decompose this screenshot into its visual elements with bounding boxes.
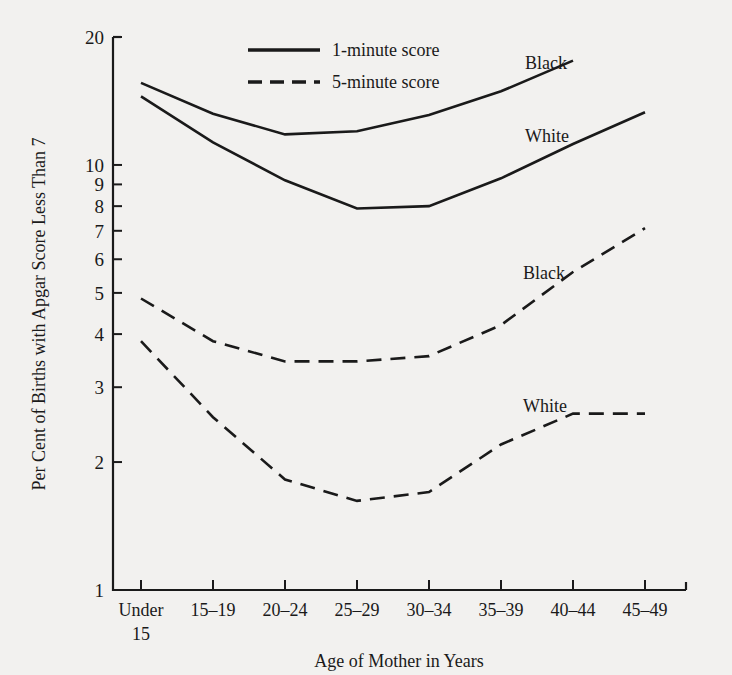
series-line-black-5-minute-score — [141, 228, 645, 361]
axes — [113, 37, 686, 590]
y-tick-label-5: 5 — [95, 283, 105, 304]
series-line-white-5-minute-score — [141, 341, 645, 501]
legend-label-5-minute: 5-minute score — [332, 72, 439, 92]
series-annotation-black-5min: Black — [523, 263, 565, 283]
series-annotation-white-1min: White — [525, 126, 569, 146]
data-series-group — [141, 61, 645, 501]
x-axis-ticks — [141, 580, 645, 590]
y-tick-label-3: 3 — [95, 377, 105, 398]
y-tick-label-9: 9 — [95, 174, 105, 195]
y-tick-label-2: 2 — [95, 452, 105, 473]
y-axis-ticks — [113, 37, 122, 590]
x-axis-title: Age of Mother in Years — [314, 651, 483, 671]
x-axis-category-label: Under — [119, 600, 164, 620]
x-axis-category-label: 45–49 — [623, 600, 668, 620]
x-axis-category-label: 15–19 — [191, 600, 236, 620]
x-axis-category-labels: Under1515–1920–2425–2930–3435–3940–4445–… — [119, 600, 668, 644]
legend: 1-minute score 5-minute score — [248, 40, 439, 92]
y-axis-tick-labels: 2010987654321 — [85, 27, 105, 601]
series-line-white-1-minute-score — [141, 96, 645, 208]
y-tick-label-20: 20 — [85, 27, 104, 48]
y-tick-label-1: 1 — [95, 580, 105, 601]
series-annotation-black-1min: Black — [525, 53, 567, 73]
y-tick-label-7: 7 — [95, 221, 105, 242]
y-tick-label-10: 10 — [85, 155, 104, 176]
chart-plot-area: 2010987654321 Under1515–1920–2425–2930–3… — [0, 0, 732, 675]
axis-lines — [113, 37, 686, 590]
x-axis-category-label: 40–44 — [551, 600, 596, 620]
x-axis-category-label: 35–39 — [479, 600, 524, 620]
x-axis-category-label: 20–24 — [263, 600, 308, 620]
apgar-score-line-chart: 2010987654321 Under1515–1920–2425–2930–3… — [0, 0, 732, 675]
y-tick-label-8: 8 — [95, 196, 105, 217]
x-axis-category-label: 25–29 — [335, 600, 380, 620]
legend-label-1-minute: 1-minute score — [332, 40, 439, 60]
x-axis-category-label-line2: 15 — [132, 624, 150, 644]
x-axis-category-label: 30–34 — [407, 600, 452, 620]
y-tick-label-4: 4 — [95, 324, 105, 345]
y-axis-title: Per Cent of Births with Apgar Score Less… — [29, 137, 49, 490]
series-annotation-white-5min: White — [523, 396, 567, 416]
y-tick-label-6: 6 — [95, 249, 105, 270]
